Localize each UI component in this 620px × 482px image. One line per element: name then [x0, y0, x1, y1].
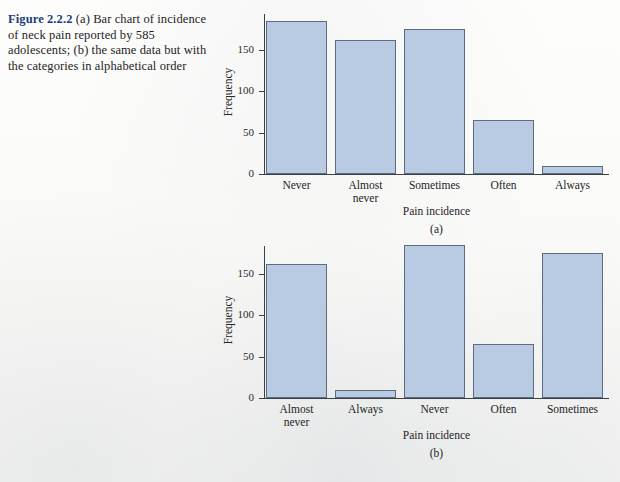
y-axis-tick	[259, 315, 264, 316]
y-axis-tick	[259, 50, 264, 51]
bar	[335, 40, 396, 174]
bar	[473, 120, 534, 174]
panel-tag: (a)	[264, 223, 609, 235]
bar-chart-a: 050100150FrequencyNeverAlmost neverSomet…	[218, 0, 620, 240]
bar	[335, 390, 396, 398]
bar	[542, 166, 603, 174]
bar	[266, 264, 327, 398]
y-axis-tick	[259, 133, 264, 134]
y-axis-tick-label: 150	[224, 267, 254, 279]
y-axis-label: Frequency	[222, 54, 234, 130]
x-axis-label: Pain incidence	[264, 205, 609, 217]
bar-chart-b: 050100150FrequencyAlmost neverAlwaysNeve…	[218, 238, 620, 482]
y-axis-tick	[259, 398, 264, 399]
y-axis-tick	[259, 274, 264, 275]
plot-area: 050100150FrequencyNeverAlmost neverSomet…	[218, 0, 620, 240]
figure-label: Figure 2.2.2	[8, 12, 73, 26]
x-axis-category-label: Sometimes	[528, 403, 618, 416]
y-axis-tick-label: 0	[224, 167, 254, 179]
x-axis-category-label: Always	[528, 179, 618, 192]
plot-area: 050100150FrequencyAlmost neverAlwaysNeve…	[218, 238, 620, 482]
panel-tag: (b)	[264, 447, 609, 459]
y-axis-line	[264, 246, 265, 398]
figure-caption: Figure 2.2.2 (a) Bar chart of incidence …	[8, 12, 208, 74]
y-axis-label: Frequency	[222, 282, 234, 358]
bar	[266, 21, 327, 174]
y-axis-tick	[259, 91, 264, 92]
x-axis-label: Pain incidence	[264, 429, 609, 441]
x-axis-line	[264, 174, 609, 175]
y-axis-tick	[259, 174, 264, 175]
y-axis-line	[264, 14, 265, 174]
bar	[404, 29, 465, 174]
bar	[404, 245, 465, 398]
y-axis-tick	[259, 357, 264, 358]
bar	[473, 344, 534, 398]
bar	[542, 253, 603, 398]
y-axis-tick-label: 0	[224, 391, 254, 403]
x-axis-line	[264, 398, 609, 399]
